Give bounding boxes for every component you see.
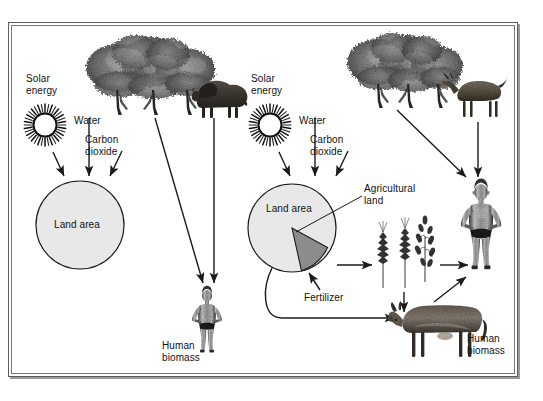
label-land-area-left: Land area	[54, 219, 100, 231]
label-land-area-right: Land area	[266, 203, 312, 215]
label-water-right: Water	[299, 115, 326, 127]
label-water-left: Water	[74, 115, 101, 127]
label-human-biomass-left: Human biomass	[162, 340, 200, 363]
label-agricultural-land: Agricultural land	[364, 183, 415, 206]
label-human-biomass-right: Human biomass	[467, 333, 505, 356]
figure-root: Solar energy Water Carbon dioxide Land a…	[0, 0, 543, 401]
label-fertilizer: Fertilizer	[304, 292, 343, 304]
label-carbon-dioxide-right: Carbon dioxide	[310, 134, 343, 157]
label-solar-energy-right: Solar energy	[251, 73, 282, 96]
label-solar-energy-left: Solar energy	[26, 73, 57, 96]
label-carbon-dioxide-left: Carbon dioxide	[85, 134, 118, 157]
